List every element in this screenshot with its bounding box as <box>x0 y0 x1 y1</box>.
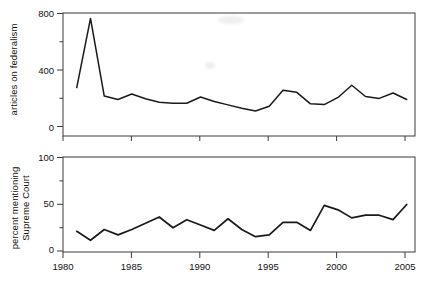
y-tick-label-bottom-100: 100 <box>22 152 54 163</box>
x-tick-label-1990: 1990 <box>180 261 220 272</box>
y-tick-label-top-0: 0 <box>22 122 54 133</box>
panel-percent-mentioning-supreme-court: percent mentioning Supreme Court 100 50 … <box>0 144 428 288</box>
x-tick-label-1985: 1985 <box>111 261 151 272</box>
y-tick-label-bottom-50: 50 <box>22 198 54 209</box>
x-tick-label-2005: 2005 <box>385 261 425 272</box>
y-axis-label-top: articles on federalism <box>8 10 19 130</box>
series-line-articles-on-federalism <box>77 18 407 111</box>
y-axis-ticks-top <box>57 14 63 127</box>
y-tick-label-top-400: 400 <box>22 65 54 76</box>
y-axis-ticks-bottom <box>57 158 63 252</box>
plot-area-top <box>0 0 428 144</box>
y-tick-label-bottom-0: 0 <box>22 244 54 255</box>
x-axis-ticks-bottom <box>63 252 405 258</box>
x-tick-label-2000: 2000 <box>317 261 357 272</box>
y-axis-label-bottom-line1: percent mentioning <box>9 148 20 268</box>
x-axis-ticks-top <box>63 136 405 141</box>
x-tick-label-1980: 1980 <box>43 261 83 272</box>
x-tick-label-1995: 1995 <box>248 261 288 272</box>
figure-two-panel-timeseries: articles on federalism 800 400 0 <box>0 0 428 288</box>
series-line-percent-mentioning-supreme-court <box>77 204 407 240</box>
y-axis-label-top-text: articles on federalism <box>8 10 19 130</box>
y-tick-label-top-800: 800 <box>22 8 54 19</box>
panel-articles-on-federalism: articles on federalism 800 400 0 <box>0 0 428 144</box>
